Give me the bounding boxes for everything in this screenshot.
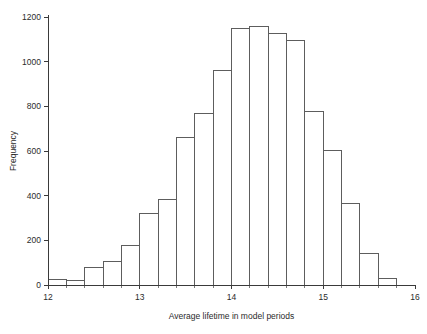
y-tick-label: 0	[36, 280, 41, 290]
histogram-bar	[360, 254, 378, 285]
y-tick-label: 1200	[22, 12, 41, 22]
histogram-bar	[103, 262, 121, 285]
y-tick-label: 200	[27, 235, 41, 245]
x-tick-label: 16	[410, 292, 420, 302]
histogram-bar	[48, 279, 66, 285]
histogram-bar	[176, 138, 194, 285]
y-tick-label: 600	[27, 146, 41, 156]
y-axis-ticks: 020040060080010001200	[22, 12, 48, 290]
y-axis-title: Frequency	[8, 130, 18, 171]
histogram-bar	[378, 278, 396, 285]
x-axis-title: Average lifetime in model periods	[169, 311, 295, 321]
x-axis-ticks: 1213141516	[43, 285, 420, 302]
histogram-bar	[195, 113, 213, 285]
y-tick-label: 800	[27, 101, 41, 111]
histogram-bar	[158, 199, 176, 285]
x-tick-label: 12	[43, 292, 53, 302]
y-tick-label: 1000	[22, 57, 41, 67]
histogram-bars	[48, 26, 397, 285]
histogram-bar	[287, 40, 305, 285]
histogram-plot: 020040060080010001200 1213141516 Frequen…	[0, 0, 427, 334]
histogram-bar	[66, 281, 84, 285]
y-tick-label: 400	[27, 191, 41, 201]
histogram-bar	[85, 267, 103, 285]
histogram-bar	[140, 214, 158, 285]
histogram-bar	[232, 28, 250, 285]
histogram-bar	[250, 26, 268, 285]
histogram-bar	[213, 71, 231, 285]
x-tick-label: 14	[227, 292, 237, 302]
x-tick-label: 13	[135, 292, 145, 302]
histogram-figure: 020040060080010001200 1213141516 Frequen…	[0, 0, 427, 334]
x-tick-label: 15	[319, 292, 329, 302]
histogram-bar	[342, 204, 360, 285]
histogram-bar	[268, 34, 286, 285]
histogram-bar	[305, 111, 323, 285]
histogram-bar	[121, 246, 139, 285]
histogram-bar	[323, 150, 341, 285]
